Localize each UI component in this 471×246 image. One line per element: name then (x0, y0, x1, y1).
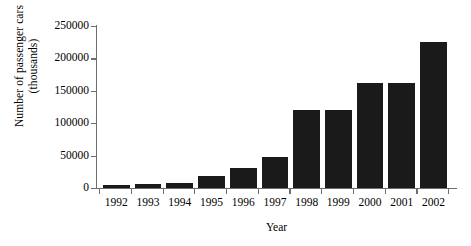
x-tick-label: 1997 (263, 197, 286, 209)
x-tick-mark (416, 189, 417, 194)
x-tick-mark (321, 189, 322, 194)
y-tick-label: 200000 (55, 53, 90, 65)
bar-1998 (293, 110, 320, 188)
x-tick-mark (131, 189, 132, 194)
x-tick-label: 2002 (422, 197, 445, 209)
bar-2000 (357, 83, 384, 188)
x-tick-label: 2000 (359, 197, 382, 209)
bar-1999 (325, 110, 352, 188)
x-tick-label: 1995 (200, 197, 223, 209)
x-tick-label: 1999 (327, 197, 350, 209)
x-tick-mark (448, 189, 449, 194)
x-tick-mark (163, 189, 164, 194)
y-tick-mark (91, 156, 96, 157)
y-tick-mark (91, 58, 96, 59)
x-tick-label: 1992 (105, 197, 128, 209)
x-axis-line (96, 188, 457, 189)
y-axis-title-line-1: Number of passenger cars (12, 0, 26, 151)
bar-chart: Number of passenger cars (thousands) 050… (0, 0, 471, 246)
x-tick-mark (99, 189, 100, 194)
bar-1994 (166, 183, 193, 188)
bar-1992 (103, 185, 130, 188)
bar-1995 (198, 176, 225, 188)
y-tick-label: 50000 (60, 150, 89, 162)
x-tick-label: 1994 (168, 197, 191, 209)
y-tick-mark (91, 91, 96, 92)
bar-1997 (262, 157, 289, 188)
y-tick-mark (91, 188, 96, 189)
bar-2001 (388, 83, 415, 188)
y-axis-title: Number of passenger cars (thousands) (12, 0, 46, 151)
x-tick-mark (289, 189, 290, 194)
x-tick-label: 2001 (390, 197, 413, 209)
y-tick-label: 100000 (55, 117, 90, 129)
x-axis-title: Year (96, 222, 457, 234)
y-tick-mark (91, 26, 96, 27)
y-tick-mark (91, 123, 96, 124)
y-tick-label: 0 (83, 182, 89, 194)
x-tick-label: 1993 (137, 197, 160, 209)
x-tick-mark (385, 189, 386, 194)
y-tick-label: 150000 (55, 85, 90, 97)
bar-1993 (135, 184, 162, 188)
x-tick-mark (353, 189, 354, 194)
x-tick-mark (226, 189, 227, 194)
x-tick-mark (194, 189, 195, 194)
x-tick-label: 1998 (295, 197, 318, 209)
x-tick-mark (258, 189, 259, 194)
x-tick-label: 1996 (232, 197, 255, 209)
bar-2002 (420, 42, 447, 188)
y-tick-label: 250000 (55, 20, 90, 32)
plot-area: 050000100000150000200000250000 199219931… (96, 25, 457, 189)
y-axis-line (96, 25, 97, 189)
y-axis-title-line-2: (thousands) (26, 0, 40, 151)
bar-1996 (230, 168, 257, 188)
